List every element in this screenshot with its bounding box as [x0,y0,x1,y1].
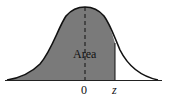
area-label: Area [73,47,97,61]
normal-curve-diagram: Area 0 z [0,0,174,100]
z-label: z [111,83,117,97]
mean-label: 0 [81,83,87,97]
shaded-area [7,7,115,80]
